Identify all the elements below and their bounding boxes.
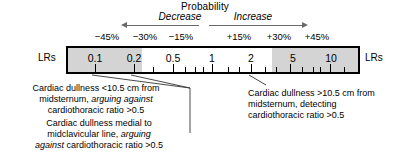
callout-line-2-italic: arguing bbox=[118, 129, 151, 139]
pct-label-plus-45: +45% bbox=[300, 31, 334, 42]
tick-minor bbox=[228, 67, 229, 72]
tick-minor bbox=[276, 67, 277, 72]
callout-line-2: midsternum, arguing against bbox=[6, 94, 186, 105]
pct-label-plus-15: +15% bbox=[222, 31, 256, 42]
arrow-head-right-icon bbox=[302, 22, 308, 28]
tick-minor bbox=[320, 67, 321, 72]
lrs-label-right: LRs bbox=[365, 52, 383, 64]
callout-line-1: Cardiac dullness medial to bbox=[6, 118, 192, 129]
scale-label-0-2: 0.2 bbox=[119, 52, 149, 64]
callout-line-2: midsternum, detecting bbox=[248, 99, 400, 110]
tick-minor bbox=[344, 67, 345, 72]
callout-line-3: against cardiothoracic ratio >0.5 bbox=[6, 140, 192, 151]
tick-minor bbox=[302, 67, 303, 72]
tick-minor bbox=[185, 67, 186, 72]
callout-line-3: cardiothoracic ratio >0.5 bbox=[248, 110, 400, 121]
tick-0-1 bbox=[95, 64, 96, 72]
scale-label-1: 1 bbox=[197, 52, 227, 64]
leader-line-detecting bbox=[249, 75, 266, 85]
increase-label: Increase bbox=[218, 11, 288, 22]
callout-cardiac-dullness-over-10-5: Cardiac dullness >10.5 cm from midsternu… bbox=[248, 88, 400, 121]
callout-cardiac-dullness-medial: Cardiac dullness medial to midclavicular… bbox=[6, 118, 192, 151]
callout-line-1: Cardiac dullness <10.5 cm from bbox=[6, 83, 186, 94]
callout-line-3: cardiothoracic ratio >0.5 bbox=[6, 105, 186, 116]
tick-5 bbox=[290, 64, 291, 72]
pct-label-minus-15: −15% bbox=[164, 31, 198, 42]
increase-arrow-line bbox=[209, 25, 302, 26]
tick-minor bbox=[195, 67, 196, 72]
decrease-label: Decrease bbox=[145, 11, 215, 22]
callout-line-2-plain: midclavicular line, bbox=[47, 129, 118, 139]
tick-10 bbox=[330, 64, 331, 72]
pct-label-minus-30: −30% bbox=[128, 31, 162, 42]
callout-line-2-plain: midsternum, bbox=[39, 94, 89, 104]
tick-2 bbox=[251, 64, 252, 72]
callout-line-2: midclavicular line, arguing bbox=[6, 129, 192, 140]
pct-label-plus-30: +30% bbox=[262, 31, 296, 42]
scale-label-0-1: 0.1 bbox=[80, 52, 110, 64]
tick-minor bbox=[239, 67, 240, 72]
callout-line-3-plain: cardiothoracic ratio >0.5 bbox=[67, 140, 163, 150]
scale-label-5: 5 bbox=[278, 52, 308, 64]
callout-cardiac-dullness-under-10-5: Cardiac dullness <10.5 cm from midsternu… bbox=[6, 83, 186, 116]
tick-minor bbox=[313, 67, 314, 72]
tick-0-5 bbox=[173, 64, 174, 72]
tick-minor bbox=[265, 67, 266, 72]
callout-line-1: Cardiac dullness >10.5 cm from bbox=[248, 88, 400, 99]
tick-0-2 bbox=[134, 64, 135, 72]
scale-label-2: 2 bbox=[236, 52, 266, 64]
lr-nomogram-figure: Probability Decrease Increase −45% −30% … bbox=[0, 0, 405, 160]
callout-line-3-italic: against bbox=[35, 140, 67, 150]
scale-label-0-5: 0.5 bbox=[158, 52, 188, 64]
decrease-arrow-line bbox=[127, 25, 199, 26]
tick-minor bbox=[203, 67, 204, 72]
likelihood-ratio-scale-bar: 0.1 0.2 0.5 1 2 5 10 bbox=[66, 46, 360, 74]
tick-minor bbox=[153, 67, 154, 72]
pct-label-minus-45: −45% bbox=[90, 31, 124, 42]
lrs-label-left: LRs bbox=[38, 52, 56, 64]
scale-label-10: 10 bbox=[316, 52, 346, 64]
callout-line-2-italic: arguing against bbox=[89, 94, 153, 104]
tick-1 bbox=[212, 64, 213, 72]
